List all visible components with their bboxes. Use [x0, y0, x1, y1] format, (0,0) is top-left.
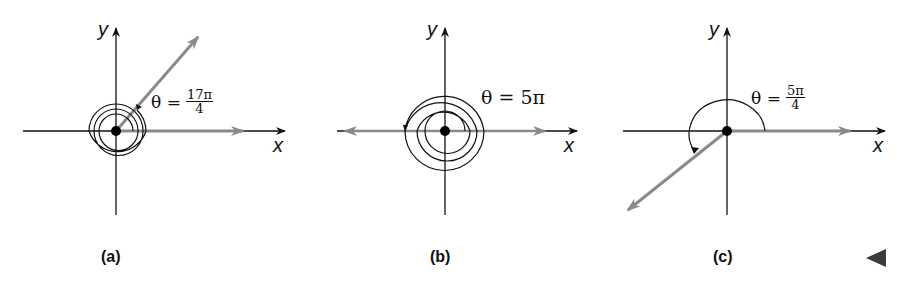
theta-prefix: θ = [751, 88, 781, 108]
x-axis-label-a: x [273, 134, 283, 157]
terminal-side [116, 37, 198, 131]
caption-b: (b) [430, 248, 450, 266]
theta-numerator: 17π [186, 88, 213, 102]
y-axis-label-b: y [427, 18, 437, 41]
theta-fraction: 17π 4 [186, 88, 213, 115]
origin-point [111, 126, 121, 136]
theta-label-b: θ = 5π [481, 86, 545, 108]
theta-denominator: 4 [195, 102, 203, 115]
y-axis-label-a: y [98, 18, 108, 41]
origin-point [722, 126, 732, 136]
figure-canvas [0, 0, 908, 288]
theta-numerator: 5π [786, 84, 805, 98]
terminal-side [628, 131, 727, 210]
theta-fraction: 5π 4 [786, 84, 805, 111]
x-axis-label-c: x [873, 134, 883, 157]
theta-prefix: θ = [151, 92, 181, 112]
theta-text: θ = 5π [481, 86, 545, 108]
theta-denominator: 4 [791, 98, 799, 111]
theta-label-c: θ = 5π 4 [751, 84, 805, 111]
x-axis-label-b: x [564, 134, 574, 157]
panel-b [337, 28, 577, 215]
panel-c [623, 28, 885, 215]
previous-triangle-icon[interactable] [866, 249, 886, 267]
origin-point [440, 126, 450, 136]
caption-a: (a) [101, 248, 121, 266]
y-axis-label-c: y [709, 18, 719, 41]
caption-c: (c) [713, 248, 733, 266]
panel-a [23, 28, 285, 215]
theta-label-a: θ = 17π 4 [151, 88, 213, 115]
